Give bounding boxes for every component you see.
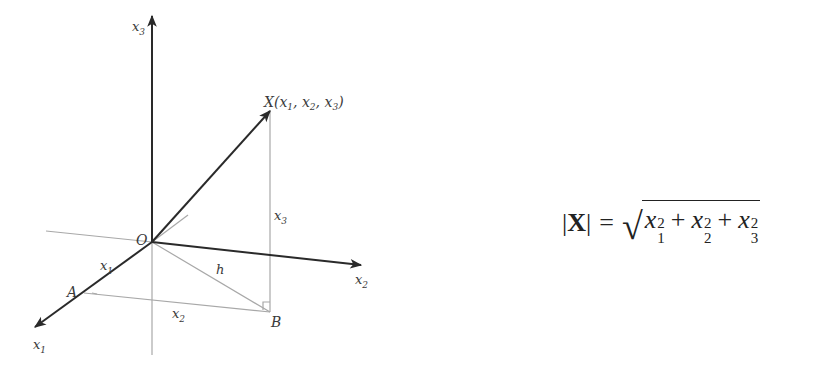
vector-3d-diagram: x3 X(x1, x2, x3) x3 O h x2 x1 A x2 B x1 [0, 0, 824, 367]
term-x1: x [645, 205, 657, 235]
x2-axis [152, 242, 361, 265]
term-x2-indices: 22 [704, 216, 712, 246]
sup: 2 [657, 216, 665, 231]
x1-axis [35, 242, 152, 327]
x2-axis-label: x2 [355, 272, 368, 290]
square-root: √ x 21 + x 22 + x 23 [622, 200, 760, 246]
position-vector-X [152, 111, 270, 242]
term-x2: x [691, 205, 703, 235]
term-x3-indices: 23 [751, 216, 759, 246]
plus-sign: + [671, 205, 686, 235]
sup: 2 [751, 216, 759, 231]
abs-bar-close: | [586, 208, 591, 238]
x1-negative-axis-line [152, 215, 188, 242]
point-B-label: B [270, 314, 281, 330]
sub: 2 [704, 231, 712, 246]
magnitude-formula: | X | = √ x 21 + x 22 + x 23 [562, 200, 760, 246]
origin-label: O [136, 232, 148, 248]
equals-sign: = [599, 208, 614, 238]
segment-x2-label: x2 [172, 306, 185, 324]
x3-axis-label: x3 [132, 19, 145, 37]
radical-icon: √ [622, 207, 643, 245]
term-x1-indices: 21 [657, 216, 665, 246]
vector-X-symbol: X [567, 208, 586, 238]
point-X-label: X(x1, x2, x3) [263, 94, 344, 112]
point-A-label: A [65, 284, 77, 300]
segment-x1-label: x1 [100, 258, 113, 276]
sub: 1 [657, 231, 665, 246]
radicand: x 21 + x 22 + x 23 [642, 200, 760, 246]
sup: 2 [704, 216, 712, 231]
hypotenuse-h-label: h [216, 262, 224, 277]
term-x3: x [738, 205, 750, 235]
plus-sign: + [718, 205, 733, 235]
segment-x3-label: x3 [274, 208, 287, 226]
x1-axis-label: x1 [33, 337, 46, 355]
sub: 3 [751, 231, 759, 246]
axes [35, 16, 361, 327]
